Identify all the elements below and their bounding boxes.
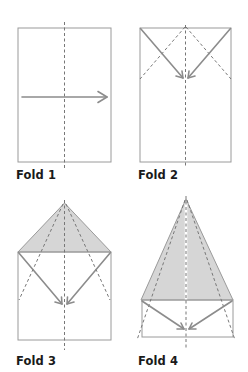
fold-2-label: Fold 2 [138, 168, 178, 182]
fold-3-left-arrow-icon [19, 253, 63, 305]
fold-1-label: Fold 1 [16, 168, 56, 182]
folding-diagram [0, 0, 248, 372]
fold-3-label: Fold 3 [16, 354, 56, 368]
fold-4-right-arrow-icon [189, 301, 232, 329]
fold-4-figure [137, 196, 235, 350]
fold-3-figure [18, 200, 111, 350]
fold-4-label: Fold 4 [138, 354, 178, 368]
fold-4-paper [142, 300, 233, 337]
fold-1-figure [18, 22, 111, 168]
fold-2-figure [140, 25, 231, 167]
fold-4-left-arrow-icon [142, 301, 184, 329]
fold-3-right-arrow-icon [67, 253, 111, 305]
